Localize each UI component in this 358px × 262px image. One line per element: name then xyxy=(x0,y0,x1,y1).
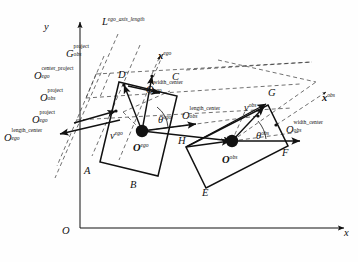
obstacle-local-x-axis-label: xobs xyxy=(322,88,335,104)
obstacle-corner-e: E xyxy=(202,188,208,199)
obstacle-heading-angle-label: θobs xyxy=(256,126,269,142)
ego-heading-angle-label: θego xyxy=(158,110,171,126)
obstacle-project-label: Oprojectobs xyxy=(40,88,63,104)
axis-label-y: y xyxy=(44,22,49,33)
ego-corner-c: C xyxy=(172,72,179,83)
ego-project-label: Oprojectego xyxy=(32,110,55,126)
ego-length-center-label: Olength_centerego xyxy=(4,128,42,144)
ego-axis-length-label: Lego_axis_length xyxy=(102,12,145,28)
obstacle-velocity-label: vobs xyxy=(244,98,256,114)
ego-velocity-label: vego xyxy=(110,126,123,142)
obstacle-length-center-label: Olength_centerobs xyxy=(182,106,220,122)
axis-label-origin: O xyxy=(62,226,70,237)
ego-center-project-label: Ocenter_projectego xyxy=(34,66,74,82)
ego-local-x-axis-label: xego xyxy=(158,46,171,62)
obstacle-center-dot xyxy=(226,135,238,147)
obstacle-g-project-label: Gprojectobs xyxy=(66,44,89,60)
ego-corner-b: B xyxy=(130,180,136,191)
obstacle-corner-f: F xyxy=(282,148,288,159)
obstacle-width-center-label: Owidth_centerobs xyxy=(286,120,323,136)
figure-canvas: y x O Lego_axis_length Gprojectobs Ocent… xyxy=(0,0,358,262)
obstacle-corner-h: H xyxy=(178,136,186,147)
obstacle-center-label: Oobs xyxy=(222,150,237,166)
ego-center-label: Oego xyxy=(133,138,149,154)
axis-label-x: x xyxy=(344,228,349,239)
ego-center-dot xyxy=(136,125,148,137)
obstacle-corner-g: G xyxy=(268,88,276,99)
ego-corner-d: D xyxy=(118,70,126,81)
ego-corner-a: A xyxy=(84,166,90,177)
